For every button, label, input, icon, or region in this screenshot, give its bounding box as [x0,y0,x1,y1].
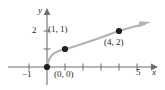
x-tick-label-5: 5 [136,68,141,77]
x-axis-label: x [152,68,156,77]
point-label-origin: (0, 0) [54,70,74,79]
point-label-one-one: (1, 1) [48,25,68,34]
graph-figure: y x 2 −1 5 (1, 1) (0, 0) (4, 2) [0,0,165,90]
y-axis-arrowhead [44,8,51,15]
y-tick-label-2: 2 [32,26,37,35]
point-four-two [116,28,122,34]
y-axis-label: y [38,6,42,15]
point-origin [44,64,50,70]
point-label-four-two: (4, 2) [104,38,124,47]
x-tick-label-neg1: −1 [22,70,32,79]
curve-arrowhead [138,21,151,27]
point-one-one [62,46,68,52]
